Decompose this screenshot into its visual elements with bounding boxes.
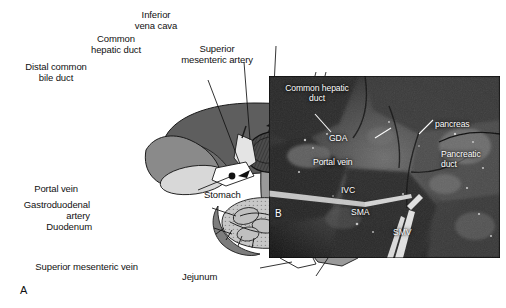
label-inferior-vena-cava: Inferior vena cava	[104, 10, 208, 31]
label-gastroduodenal-artery: Gastroduodenal artery	[0, 200, 90, 221]
label-portal-vein: Portal vein	[0, 184, 78, 195]
label-superior-mesenteric-artery: Superior mesenteric artery	[168, 44, 266, 65]
label-duodenum: Duodenum	[0, 222, 92, 233]
photo-label-portal-vein: Portal vein	[313, 158, 353, 168]
label-jejunum: Jejunum	[182, 272, 217, 283]
photo-label-smv: SMV	[393, 228, 411, 238]
panel-b: Common hepatic duct GDA Portal vein IVC …	[269, 76, 500, 258]
photo-label-gda: GDA	[329, 134, 347, 144]
label-common-hepatic-duct: Common hepatic duct	[62, 34, 170, 55]
panel-a-letter: A	[20, 284, 27, 296]
photo-label-sma: SMA	[351, 208, 369, 218]
panel-b-letter: B	[275, 208, 282, 219]
photo-label-ivc: IVC	[341, 186, 355, 196]
photo-label-pancreatic-duct: Pancreatic duct	[441, 150, 481, 169]
photo-label-common-hepatic-duct: Common hepatic duct	[271, 84, 363, 103]
label-stomach: Stomach	[204, 190, 241, 201]
label-superior-mesenteric-vein: Superior mesenteric vein	[0, 262, 138, 273]
panel-a: Inferior vena cava Common hepatic duct S…	[0, 0, 266, 308]
label-distal-common-bile-duct: Distal common bile duct	[6, 62, 106, 83]
photo-label-pancreas: pancreas	[435, 120, 470, 130]
